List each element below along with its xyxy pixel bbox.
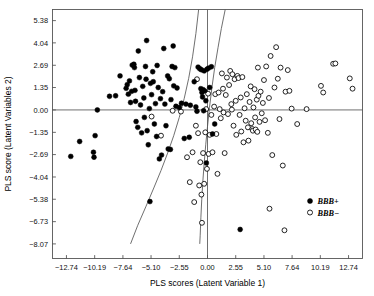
scatter-point <box>172 65 177 70</box>
scatter-point <box>270 153 275 158</box>
scatter-point <box>171 44 176 49</box>
scatter-point <box>263 118 268 123</box>
y-tick-label: −1.35 <box>29 128 48 137</box>
scatter-point <box>210 132 215 137</box>
y-tick-label: 1.35 <box>34 83 48 92</box>
x-axis-title: PLS scores (Latent Variable 1) <box>150 278 265 288</box>
y-tick-label: −8.07 <box>29 240 48 249</box>
scatter-point <box>241 140 246 145</box>
legend-marker-open-circle-icon <box>308 210 313 215</box>
scatter-point <box>218 116 223 121</box>
scatter-point <box>207 85 212 90</box>
legend-label: BBB− <box>317 209 339 218</box>
scatter-point <box>136 49 141 54</box>
scatter-point <box>92 155 97 160</box>
right-decision-curve <box>200 10 225 244</box>
scatter-point <box>234 132 239 137</box>
scatter-point <box>285 68 290 73</box>
scatter-point <box>255 129 260 134</box>
scatter-point <box>280 163 285 168</box>
scatter-point <box>260 101 265 106</box>
scatter-point <box>205 166 210 171</box>
scatter-point <box>216 90 221 95</box>
scatter-point <box>77 139 82 144</box>
scatter-point <box>155 63 160 68</box>
scatter-point <box>240 75 245 80</box>
y-tick-label: −5.38 <box>29 195 48 204</box>
y-tick-label: −6.73 <box>29 217 48 226</box>
legend: BBB+BBB− <box>308 197 339 218</box>
scatter-point <box>156 85 161 90</box>
scatter-point <box>192 200 197 205</box>
scatter-point <box>242 106 247 111</box>
scatter-point <box>222 151 227 156</box>
scatter-point <box>158 96 163 101</box>
scatter-point <box>93 133 98 138</box>
scatter-point <box>133 99 138 104</box>
y-tick-label: 2.69 <box>34 61 48 70</box>
scatter-point <box>192 79 197 84</box>
scatter-point <box>188 103 193 108</box>
scatter-point <box>169 97 174 102</box>
scatter-point <box>274 45 279 50</box>
scatter-point <box>350 86 355 91</box>
scatter-point <box>150 69 155 74</box>
scatter-point <box>282 228 287 233</box>
scatter-point <box>149 114 154 119</box>
scatter-point <box>159 133 164 138</box>
scatter-point <box>226 112 231 117</box>
scatter-point <box>185 155 190 160</box>
scatter-point <box>258 89 263 94</box>
scatter-point <box>278 65 283 70</box>
y-tick-label: 4.04 <box>34 39 48 48</box>
scatter-point <box>134 119 139 124</box>
scatter-point <box>138 103 143 108</box>
x-tick-label: 7.64 <box>285 263 299 272</box>
scatter-point <box>161 46 166 51</box>
scatter-point <box>137 75 142 80</box>
pls-score-scatter-figure: −12.74−10.19−7.64−5.10−2.550.002.555.107… <box>0 0 374 296</box>
scatter-point <box>91 150 96 155</box>
scatter-point <box>197 183 202 188</box>
scatter-point <box>287 88 292 93</box>
scatter-point <box>272 85 277 90</box>
scatter-point <box>107 94 112 99</box>
scatter-point <box>321 90 326 95</box>
scatter-point <box>202 88 207 93</box>
x-tick-label: −10.19 <box>83 263 106 272</box>
scatter-point <box>127 78 132 83</box>
scatter-point <box>347 76 352 81</box>
scatter-point <box>267 206 272 211</box>
x-tick-label: −5.10 <box>142 263 161 272</box>
scatter-point <box>139 130 144 135</box>
scatter-point <box>118 73 123 78</box>
scatter-point <box>151 79 156 84</box>
scatter-point <box>238 95 243 100</box>
scatter-point <box>167 76 172 81</box>
scatter-point <box>212 122 217 127</box>
scatter-point <box>199 192 204 197</box>
scatter-point <box>132 65 137 70</box>
y-axis-tick-labels: 5.384.042.691.350.00−1.35−2.69−4.04−5.38… <box>29 16 48 248</box>
scatter-point <box>239 129 244 134</box>
scatter-point <box>113 93 118 98</box>
scatter-point <box>289 106 294 111</box>
scatter-point <box>237 112 242 117</box>
scatter-point <box>295 122 300 127</box>
scatter-point <box>253 115 258 120</box>
x-tick-label: 5.10 <box>257 263 271 272</box>
scatter-point <box>168 147 173 152</box>
scatter-point <box>200 220 205 225</box>
scatter-point <box>170 108 175 113</box>
scatter-point <box>277 117 282 122</box>
scatter-point <box>333 61 338 66</box>
legend-marker-filled-circle-icon <box>308 199 313 204</box>
scatter-point <box>233 98 238 103</box>
scatter-point <box>243 118 248 123</box>
scatter-point <box>195 109 200 114</box>
scatter-point <box>187 135 192 140</box>
scatter-point <box>304 107 309 112</box>
scatter-point <box>209 112 214 117</box>
scatter-point <box>159 153 164 158</box>
scatter-point <box>229 107 234 112</box>
